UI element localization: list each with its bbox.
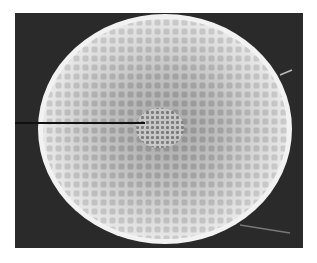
micrograph-frame xyxy=(15,13,303,248)
micrograph-image xyxy=(15,13,303,248)
pole-center xyxy=(136,108,184,148)
